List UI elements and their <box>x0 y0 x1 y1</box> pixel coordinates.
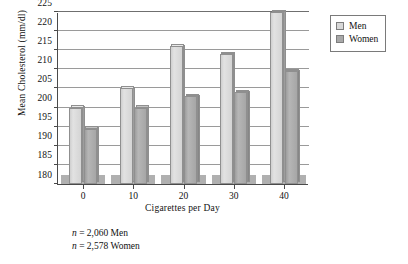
bar-front-face <box>170 46 183 184</box>
bar-men-0 <box>69 108 82 184</box>
bar-women-0 <box>84 129 97 184</box>
bar-top-face <box>136 105 149 107</box>
y-tick-mark <box>54 126 58 127</box>
bar-top-face <box>272 10 285 12</box>
y-tick-label: 195 <box>37 112 52 122</box>
bar-men-10 <box>120 88 133 184</box>
bar-front-face <box>120 88 133 184</box>
y-tick-label: 205 <box>37 74 52 84</box>
bar-side-face <box>197 95 200 183</box>
bar-front-face <box>234 92 247 184</box>
y-tick-label: 200 <box>37 93 52 103</box>
bar-front-face <box>270 12 283 184</box>
bar-top-face <box>71 105 84 107</box>
bar-chart-figure: Mean Cholesterol (mm/dl) 180185190195200… <box>0 0 408 264</box>
bar-men-30 <box>220 54 233 184</box>
y-tick-label: 225 <box>37 0 52 8</box>
bar-men-40 <box>270 12 283 184</box>
y-tick-mark <box>54 145 58 146</box>
y-tick-label: 185 <box>37 150 52 160</box>
x-tick-label: 20 <box>179 191 189 201</box>
x-tick-mark <box>83 184 84 189</box>
y-tick-mark <box>54 87 58 88</box>
bar-side-face <box>147 106 150 182</box>
y-tick-mark <box>54 49 58 50</box>
bar-front-face <box>285 71 298 184</box>
y-tick-label: 210 <box>37 55 52 65</box>
legend-swatch-men <box>336 22 344 30</box>
x-tick-mark <box>284 184 285 189</box>
bar-top-face <box>186 94 199 96</box>
legend: Men Women <box>330 15 386 52</box>
legend-item-women: Women <box>336 33 378 46</box>
bar-front-face <box>69 108 82 184</box>
y-tick-label: 215 <box>37 36 52 46</box>
bar-front-face <box>134 108 147 184</box>
bar-side-face <box>247 91 250 183</box>
y-tick-label: 180 <box>37 170 52 180</box>
y-tick-mark <box>54 164 58 165</box>
footnote-line-women: n = 2,578 Women <box>72 240 140 253</box>
y-tick-mark <box>54 68 58 69</box>
bar-women-20 <box>184 96 197 184</box>
bar-side-face <box>97 127 100 182</box>
y-axis-title: Mean Cholesterol (mm/dl) <box>17 0 27 133</box>
bar-front-face <box>84 129 97 184</box>
y-tick-mark <box>54 107 58 108</box>
x-tick-mark <box>184 184 185 189</box>
legend-swatch-women <box>336 35 344 43</box>
footnote: n = 2,060 Men n = 2,578 Women <box>72 227 140 253</box>
footnote-line-men: n = 2,060 Men <box>72 227 140 240</box>
legend-label-men: Men <box>349 20 366 33</box>
bar-top-face <box>221 52 234 54</box>
bar-front-face <box>184 96 197 184</box>
bar-top-face <box>121 86 134 88</box>
bar-top-face <box>85 126 98 128</box>
footnote-text-men: = 2,060 Men <box>77 228 128 238</box>
plot-area: 180185190195200205210215220225010203040 <box>57 13 308 185</box>
y-tick-label: 190 <box>37 131 52 141</box>
y-tick-mark <box>54 183 58 184</box>
footnote-text-women: = 2,578 Women <box>77 241 140 251</box>
bar-front-face <box>220 54 233 184</box>
bar-women-10 <box>134 108 147 184</box>
bar-top-face <box>236 90 249 92</box>
y-tick-mark <box>54 11 58 12</box>
bar-side-face <box>297 70 300 183</box>
y-tick-mark <box>54 30 58 31</box>
legend-label-women: Women <box>349 33 378 46</box>
x-tick-mark <box>234 184 235 189</box>
y-tick-label: 220 <box>37 17 52 27</box>
legend-item-men: Men <box>336 20 378 33</box>
x-tick-label: 30 <box>229 191 239 201</box>
x-tick-label: 10 <box>129 191 139 201</box>
x-tick-mark <box>133 184 134 189</box>
x-tick-label: 0 <box>81 191 86 201</box>
bar-men-20 <box>170 46 183 184</box>
bar-women-30 <box>234 92 247 184</box>
x-tick-label: 40 <box>279 191 289 201</box>
bar-top-face <box>171 44 184 46</box>
bar-women-40 <box>285 71 298 184</box>
bar-top-face <box>286 69 299 71</box>
x-axis-title: Cigarettes per Day <box>57 203 308 213</box>
